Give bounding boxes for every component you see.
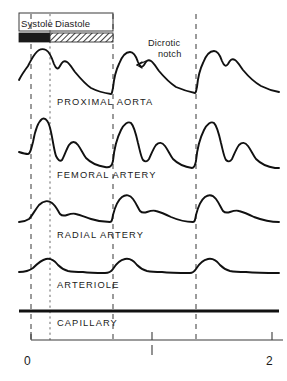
- pressure-waveform-figure: Systole Diastole PROXIMAL AORTA Dicrotic…: [0, 0, 287, 381]
- capillary-label: CAPILLARY: [57, 318, 118, 328]
- diastole-bar: [50, 33, 113, 42]
- dicrotic-notch-annotation: Dicrotic notch: [137, 38, 181, 68]
- cardiac-phase-bars: Systole Diastole: [19, 13, 113, 42]
- trace-femoral-artery: FEMORAL ARTERY: [19, 119, 279, 180]
- diastole-label: Diastole: [55, 18, 90, 29]
- radial-artery-label: RADIAL ARTERY: [57, 230, 144, 240]
- trace-radial-artery: RADIAL ARTERY: [19, 195, 279, 240]
- arteriole-label: ARTERIOLE: [57, 280, 119, 290]
- x-axis-label-2: 2: [266, 354, 273, 368]
- femoral-artery-label: FEMORAL ARTERY: [57, 170, 156, 180]
- arteriole-waveform: [19, 259, 279, 273]
- systole-label: Systole: [21, 18, 53, 29]
- proximal-aorta-label: PROXIMAL AORTA: [57, 97, 153, 107]
- waveform-svg: Systole Diastole PROXIMAL AORTA Dicrotic…: [0, 0, 287, 381]
- dicrotic-notch-label-line1: Dicrotic: [148, 38, 180, 48]
- trace-capillary: CAPILLARY: [19, 311, 279, 328]
- femoral-artery-waveform: [19, 119, 279, 168]
- dicrotic-notch-label-line2: notch: [158, 49, 181, 59]
- trace-arteriole: ARTERIOLE: [19, 259, 279, 290]
- radial-artery-waveform: [19, 195, 279, 222]
- systole-bar: [19, 33, 50, 42]
- x-axis-label-0: 0: [24, 354, 31, 368]
- x-axis: 0 2: [24, 332, 283, 368]
- trace-proximal-aorta: PROXIMAL AORTA: [19, 49, 279, 107]
- proximal-aorta-waveform: [19, 49, 279, 94]
